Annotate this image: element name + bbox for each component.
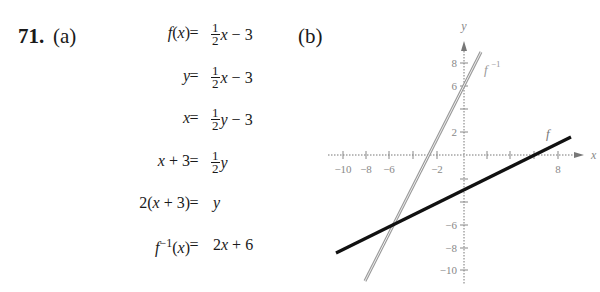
y-tick-label: −10 (440, 264, 458, 276)
x-tick-label: −8 (360, 163, 372, 175)
x-tick-label: −6 (383, 163, 395, 175)
x-tick-labels: −10 −8 −6 −2 8 (334, 163, 561, 175)
y-tick-label: 2 (452, 126, 458, 138)
y-tick-label: −6 (445, 219, 457, 231)
x-axis-arrow-icon (574, 152, 584, 158)
f-curve-label: f (546, 126, 552, 141)
x-tick-label: 8 (555, 163, 561, 175)
function-graph: −10 −8 −6 −2 8 8 6 2 −6 −8 −10 x y f f −… (0, 0, 600, 292)
y-axis-label: y (460, 19, 467, 33)
f-inverse-curve-label: f (484, 62, 490, 77)
y-tick-label: 8 (452, 57, 458, 69)
x-tick-label: −10 (334, 163, 352, 175)
y-tick-label: −8 (445, 242, 457, 254)
x-axis-label: x (590, 148, 597, 162)
f-inverse-superscript: −1 (491, 59, 501, 69)
f-line (336, 137, 571, 253)
x-tick-label: −2 (431, 163, 443, 175)
y-axis-arrow-icon (461, 41, 467, 51)
y-tick-label: 6 (452, 80, 458, 92)
